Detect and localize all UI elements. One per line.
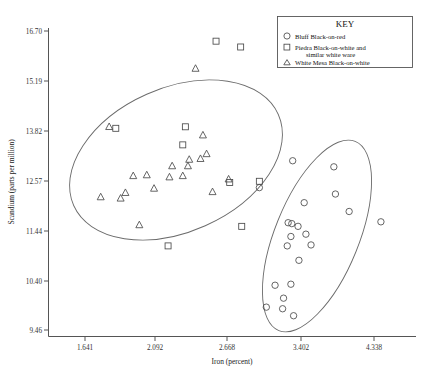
data-point-circle bbox=[289, 158, 295, 164]
data-point-triangle bbox=[184, 162, 191, 169]
data-point-circle bbox=[295, 223, 301, 229]
scatter-plot-figure: 16.70 15.19 13.82 12.57 11.44 10.40 9.46… bbox=[0, 0, 423, 374]
data-point-circle bbox=[296, 257, 302, 263]
data-point-square bbox=[165, 243, 171, 249]
data-point-square bbox=[113, 125, 119, 131]
data-point-circle bbox=[308, 242, 314, 248]
data-point-triangle bbox=[169, 162, 176, 169]
data-point-triangle bbox=[166, 173, 173, 180]
data-point-circle bbox=[301, 199, 307, 205]
data-point-circle bbox=[290, 313, 296, 319]
x-axis-title: Iron (percent) bbox=[212, 357, 253, 366]
data-point-circle bbox=[332, 191, 338, 197]
data-point-triangle bbox=[97, 193, 104, 200]
y-axis-ticks: 16.70 15.19 13.82 12.57 11.44 10.40 9.46 bbox=[26, 28, 49, 335]
data-point-circle bbox=[279, 306, 285, 312]
data-point-square bbox=[213, 38, 219, 44]
data-point-circle bbox=[288, 233, 294, 239]
data-point-circle bbox=[288, 281, 294, 287]
data-point-triangle bbox=[106, 123, 113, 130]
y-tick-label-6: 9.46 bbox=[29, 327, 42, 335]
data-point-circle bbox=[289, 220, 295, 226]
data-point-triangle bbox=[122, 189, 129, 196]
plot-svg: 16.70 15.19 13.82 12.57 11.44 10.40 9.46… bbox=[0, 0, 423, 374]
data-point-circle bbox=[303, 231, 309, 237]
y-tick-label-2: 13.82 bbox=[26, 128, 43, 136]
data-point-triangle bbox=[130, 172, 137, 179]
data-point-triangle bbox=[209, 188, 216, 195]
data-point-triangle bbox=[203, 150, 210, 157]
data-point-square bbox=[180, 142, 186, 148]
data-point-square bbox=[238, 44, 244, 50]
data-point-circle bbox=[284, 243, 290, 249]
x-tick-label-1: 2.092 bbox=[147, 344, 164, 352]
legend-title: KEY bbox=[336, 19, 355, 29]
y-tick-label-4: 11.44 bbox=[26, 228, 42, 236]
x-axis-ticks: 1.641 2.092 2.668 3.402 4.338 bbox=[77, 337, 383, 353]
legend-label-piedra: Piedra Black-on-white and bbox=[295, 44, 366, 51]
data-point-square bbox=[182, 124, 188, 130]
data-point-triangle bbox=[143, 171, 150, 178]
x-tick-label-0: 1.641 bbox=[77, 344, 94, 352]
data-point-circle bbox=[346, 208, 352, 214]
data-point-triangle bbox=[186, 156, 193, 163]
data-point-circle bbox=[378, 219, 384, 225]
data-point-square bbox=[239, 223, 245, 229]
legend-label-bluff: Bluff Black-on-red bbox=[295, 33, 346, 40]
data-point-triangle bbox=[225, 175, 232, 182]
x-tick-label-4: 4.338 bbox=[366, 344, 383, 352]
legend: KEY Bluff Black-on-red Piedra Black-on-w… bbox=[278, 17, 413, 68]
data-point-triangle bbox=[199, 131, 206, 138]
data-point-square bbox=[227, 180, 233, 186]
x-tick-label-2: 2.668 bbox=[219, 344, 236, 352]
data-markers bbox=[97, 38, 384, 319]
y-tick-label-0: 16.70 bbox=[26, 28, 43, 36]
data-point-circle bbox=[280, 295, 286, 301]
legend-label-piedra-line2: similar white ware bbox=[306, 51, 355, 58]
data-point-circle bbox=[272, 282, 278, 288]
data-point-triangle bbox=[136, 221, 143, 228]
data-point-triangle bbox=[197, 155, 204, 162]
group-ellipses bbox=[44, 49, 394, 347]
y-tick-label-5: 10.40 bbox=[26, 278, 43, 286]
data-point-triangle bbox=[151, 185, 158, 192]
data-point-triangle bbox=[192, 65, 199, 72]
x-tick-label-3: 3.402 bbox=[293, 344, 310, 352]
left-group-ellipse bbox=[44, 49, 307, 272]
legend-label-whitemesa: White Mesa Black-on-white bbox=[295, 59, 370, 66]
y-tick-label-3: 12.57 bbox=[26, 178, 43, 186]
data-point-circle bbox=[331, 164, 337, 170]
data-point-square bbox=[256, 178, 262, 184]
right-group-ellipse bbox=[240, 126, 394, 347]
y-axis-title: Scandium (parts per million) bbox=[7, 139, 16, 225]
y-tick-label-1: 15.19 bbox=[26, 78, 43, 86]
data-point-triangle bbox=[179, 172, 186, 179]
